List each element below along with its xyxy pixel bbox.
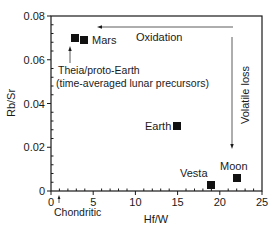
x-tick-label: 15 [171, 196, 183, 208]
volatile-loss-label: Volatile loss [239, 65, 251, 124]
point-vesta [207, 181, 215, 189]
theia-label-line2: (time-averaged lunar precursors) [56, 77, 209, 89]
x-tick-label: 20 [214, 196, 226, 208]
x-axis-title: Hf/W [144, 213, 169, 225]
y-axis-ticks [47, 16, 54, 191]
theia-arrow [68, 46, 71, 63]
y-tick-labels: 0.08 0.06 0.04 0.02 0 [24, 10, 45, 197]
oxidation-arrow [97, 25, 233, 28]
mars-label: Mars [92, 34, 117, 46]
oxidation-label: Oxidation [136, 31, 182, 43]
point-mars [80, 36, 88, 44]
moon-label: Moon [220, 160, 248, 172]
x-tick-label: 25 [256, 196, 268, 208]
earth-label: Earth [145, 120, 171, 132]
x-axis-ticks [51, 189, 262, 196]
y-tick-label: 0.02 [24, 141, 45, 153]
y-tick-label: 0 [39, 185, 45, 197]
point-moon [233, 174, 241, 182]
y-tick-label: 0.06 [24, 54, 45, 66]
volatile-loss-arrow [230, 37, 233, 149]
y-tick-label: 0.08 [24, 10, 45, 22]
chondritic-label: Chondritic [54, 206, 101, 218]
chondritic-arrow [58, 195, 61, 203]
scatter-chart: 0.08 0.06 0.04 0.02 0 0 5 10 15 20 25 Hf… [0, 0, 273, 230]
point-theia [71, 34, 79, 42]
vesta-label: Vesta [180, 167, 208, 179]
x-tick-label: 10 [129, 196, 141, 208]
theia-label-line1: Theia/proto-Earth [58, 64, 140, 76]
y-axis-title: Rb/Sr [5, 89, 17, 117]
y-tick-label: 0.04 [24, 98, 45, 110]
data-points [71, 34, 241, 189]
point-earth [173, 122, 181, 130]
